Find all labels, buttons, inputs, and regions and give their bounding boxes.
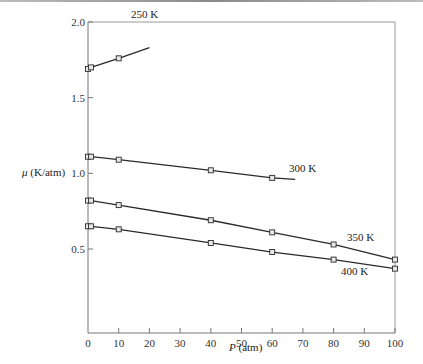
x-tick-label: 40	[205, 337, 217, 349]
x-tick-label: 0	[85, 337, 91, 349]
series-300k: 300 K	[86, 154, 317, 180]
series-label: 300 K	[289, 162, 316, 174]
labels-group: μ (K/atm) P (atm)	[21, 166, 263, 354]
data-point-marker	[208, 168, 213, 173]
x-tick-label: 60	[267, 337, 279, 349]
y-tick-label: 0.5	[71, 243, 85, 255]
x-tick-label: 100	[387, 337, 404, 349]
axes: 01020304050607080901000.51.01.52.0	[71, 16, 404, 349]
series-350k: 350 K	[86, 198, 398, 262]
chart-canvas: 01020304050607080901000.51.01.52.0 250 K…	[0, 0, 423, 364]
data-point-marker	[116, 56, 121, 61]
data-point-marker	[393, 266, 398, 271]
x-tick-label: 30	[175, 337, 187, 349]
data-point-marker	[331, 257, 336, 262]
data-point-marker	[89, 224, 94, 229]
data-point-marker	[393, 257, 398, 262]
y-tick-label: 1.5	[71, 92, 85, 104]
series-label: 400 K	[341, 265, 368, 277]
y-axis-title: μ (K/atm)	[21, 166, 65, 179]
data-point-marker	[270, 230, 275, 235]
data-point-marker	[270, 175, 275, 180]
data-point-marker	[116, 157, 121, 162]
x-tick-label: 70	[297, 337, 309, 349]
data-point-marker	[208, 218, 213, 223]
data-point-marker	[116, 227, 121, 232]
series-group: 250 K300 K350 K400 K	[86, 8, 398, 277]
data-point-marker	[89, 154, 94, 159]
data-point-marker	[270, 250, 275, 255]
data-point-marker	[116, 203, 121, 208]
data-point-marker	[331, 242, 336, 247]
series-label: 350 K	[347, 231, 374, 243]
data-point-marker	[89, 198, 94, 203]
x-tick-label: 80	[328, 337, 340, 349]
data-point-marker	[89, 65, 94, 70]
data-point-marker	[208, 240, 213, 245]
x-axis-title: P (atm)	[228, 341, 263, 354]
x-tick-label: 90	[359, 337, 371, 349]
y-tick-label: 1.0	[71, 167, 85, 179]
x-tick-label: 10	[113, 337, 125, 349]
series-250k: 250 K	[86, 8, 159, 71]
series-label: 250 K	[131, 8, 158, 20]
x-tick-label: 20	[144, 337, 156, 349]
y-tick-label: 2.0	[71, 16, 85, 28]
